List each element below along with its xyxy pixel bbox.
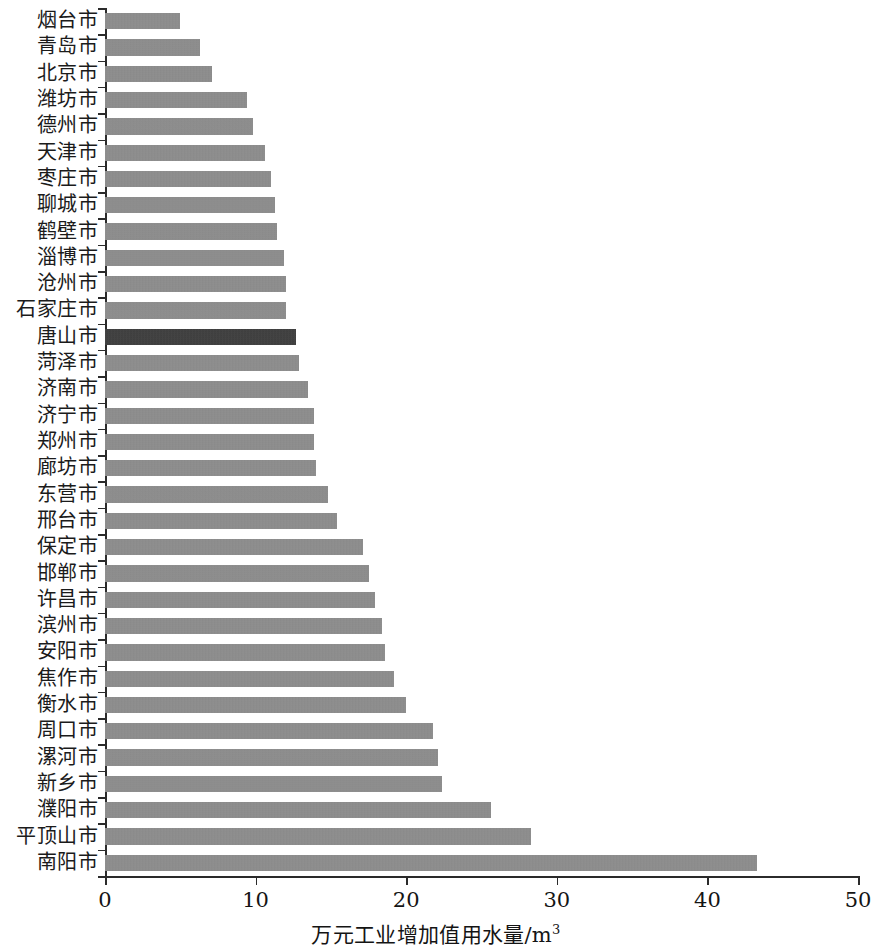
y-axis-label-淄博市: 淄博市 [0, 247, 98, 267]
bar-新乡市 [105, 776, 442, 792]
bar-row [0, 118, 872, 134]
y-tick [98, 508, 106, 510]
bar-row [0, 434, 872, 450]
bar-南阳市 [105, 855, 757, 871]
y-axis-label-唐山市: 唐山市 [0, 326, 98, 346]
bar-row [0, 592, 872, 608]
y-tick [98, 350, 106, 352]
bar-周口市 [105, 723, 433, 739]
y-axis-label-青岛市: 青岛市 [0, 36, 98, 56]
bar-row [0, 250, 872, 266]
x-tick-label-30: 30 [543, 890, 570, 911]
bar-row [0, 513, 872, 529]
bar-row [0, 644, 872, 660]
bar-row [0, 13, 872, 29]
y-tick [98, 666, 106, 668]
bar-row [0, 381, 872, 397]
y-tick [98, 271, 106, 273]
bar-rows-container [0, 0, 872, 948]
y-tick [98, 166, 106, 168]
bar-row [0, 697, 872, 713]
y-axis-label-济宁市: 济宁市 [0, 405, 98, 425]
bar-濮阳市 [105, 802, 491, 818]
bar-聊城市 [105, 197, 275, 213]
x-axis-title: 万元工业增加值用水量/m3 [0, 918, 872, 948]
x-tick [707, 876, 709, 885]
y-axis-label-潍坊市: 潍坊市 [0, 89, 98, 109]
y-tick [98, 324, 106, 326]
y-tick [98, 850, 106, 852]
bar-平顶山市 [105, 828, 531, 844]
bar-row [0, 802, 872, 818]
bar-廊坊市 [105, 460, 316, 476]
bar-石家庄市 [105, 302, 286, 318]
x-tick-label-40: 40 [694, 890, 721, 911]
bar-邯郸市 [105, 565, 369, 581]
bar-济宁市 [105, 408, 314, 424]
y-tick [98, 534, 106, 536]
bar-row [0, 776, 872, 792]
y-axis-label-邢台市: 邢台市 [0, 510, 98, 530]
y-tick [98, 245, 106, 247]
y-tick [98, 639, 106, 641]
y-axis-label-安阳市: 安阳市 [0, 641, 98, 661]
y-tick [98, 455, 106, 457]
bar-row [0, 197, 872, 213]
bar-许昌市 [105, 592, 375, 608]
x-tick-label-50: 50 [845, 890, 872, 911]
y-axis-label-北京市: 北京市 [0, 63, 98, 83]
y-tick [98, 744, 106, 746]
y-axis-label-菏泽市: 菏泽市 [0, 352, 98, 372]
bar-row [0, 223, 872, 239]
bar-row [0, 171, 872, 187]
y-axis-label-烟台市: 烟台市 [0, 10, 98, 30]
bar-row [0, 539, 872, 555]
y-axis-label-廊坊市: 廊坊市 [0, 457, 98, 477]
y-axis-label-许昌市: 许昌市 [0, 589, 98, 609]
y-tick [98, 429, 106, 431]
y-axis-label-鹤壁市: 鹤壁市 [0, 221, 98, 241]
y-tick [98, 613, 106, 615]
y-axis-label-南阳市: 南阳市 [0, 852, 98, 872]
bar-青岛市 [105, 39, 200, 55]
bar-保定市 [105, 539, 363, 555]
y-axis-label-天津市: 天津市 [0, 142, 98, 162]
bar-row [0, 828, 872, 844]
bar-row [0, 460, 872, 476]
bar-菏泽市 [105, 355, 299, 371]
x-tick [105, 876, 107, 885]
x-tick [858, 876, 860, 885]
bar-row [0, 66, 872, 82]
y-tick [98, 560, 106, 562]
y-tick [98, 771, 106, 773]
bar-济南市 [105, 381, 308, 397]
bar-天津市 [105, 145, 265, 161]
y-tick [98, 823, 106, 825]
bar-row [0, 723, 872, 739]
y-tick [98, 587, 106, 589]
y-axis-label-沧州市: 沧州市 [0, 273, 98, 293]
y-tick [98, 113, 106, 115]
bar-row [0, 302, 872, 318]
bar-row [0, 749, 872, 765]
bar-德州市 [105, 118, 253, 134]
y-tick [98, 87, 106, 89]
y-tick [98, 61, 106, 63]
bar-北京市 [105, 66, 212, 82]
y-tick [98, 797, 106, 799]
y-axis-label-新乡市: 新乡市 [0, 773, 98, 793]
y-axis-label-济南市: 济南市 [0, 378, 98, 398]
bar-row [0, 145, 872, 161]
bar-焦作市 [105, 671, 394, 687]
y-axis-label-邯郸市: 邯郸市 [0, 563, 98, 583]
bar-邢台市 [105, 513, 337, 529]
y-axis-label-滨州市: 滨州市 [0, 615, 98, 635]
bar-row [0, 92, 872, 108]
y-tick [98, 403, 106, 405]
bar-鹤壁市 [105, 223, 277, 239]
bar-row [0, 855, 872, 871]
x-tick-label-20: 20 [393, 890, 420, 911]
bar-row [0, 329, 872, 345]
y-axis-label-东营市: 东营市 [0, 484, 98, 504]
bar-chart: 01020304050 万元工业增加值用水量/m3 烟台市青岛市北京市潍坊市德州… [0, 0, 872, 948]
